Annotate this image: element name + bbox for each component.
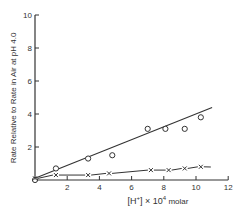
- y-axis-label: Rate Relative to Rate in Air at pH 4.0: [9, 32, 18, 163]
- cross-connector: [172, 168, 182, 170]
- x-tick-label: 8: [162, 183, 167, 192]
- circle-marker: [145, 126, 150, 131]
- series-layer: [32, 107, 212, 182]
- x-tick-label: 10: [192, 183, 201, 192]
- cross-marker: [183, 166, 187, 170]
- x-tick-label: 6: [129, 183, 134, 192]
- x-tick-label: 12: [224, 183, 233, 192]
- circle-marker: [198, 115, 203, 120]
- y-tick-label: 8: [28, 44, 33, 53]
- y-tick-label: 2: [28, 143, 33, 152]
- x-axis-label: [H+] × 104 molar: [128, 195, 189, 206]
- cross-marker: [167, 168, 171, 172]
- cross-marker: [107, 171, 111, 175]
- circle-marker: [110, 153, 115, 158]
- circle-marker: [163, 126, 168, 131]
- cross-connector: [91, 173, 106, 175]
- cross-marker: [86, 173, 90, 177]
- circle-marker: [86, 156, 91, 161]
- y-tick-label: 4: [28, 110, 33, 119]
- y-tick-label: 10: [23, 11, 32, 20]
- x-tick-label: 2: [65, 183, 70, 192]
- x-tick-label: 4: [97, 183, 102, 192]
- y-tick-label: 6: [28, 77, 33, 86]
- cross-marker: [54, 173, 58, 177]
- chart-svg: 24681024681012 Rate Relative to Rate in …: [0, 0, 245, 216]
- circle-marker: [182, 126, 187, 131]
- cross-connector: [188, 167, 198, 169]
- cross-marker: [199, 165, 203, 169]
- axes: 24681024681012: [23, 11, 233, 192]
- circle-marker: [53, 166, 58, 171]
- chart: 24681024681012 Rate Relative to Rate in …: [0, 0, 245, 216]
- cross-connector: [112, 170, 148, 173]
- cross-marker: [149, 168, 153, 172]
